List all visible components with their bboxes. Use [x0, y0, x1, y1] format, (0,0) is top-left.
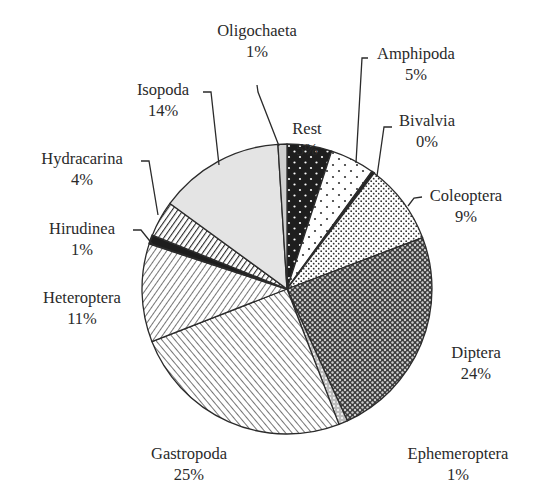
label-name: Oligochaeta	[217, 20, 297, 41]
label-diptera: Diptera24%	[451, 342, 500, 384]
label-amphipoda: Amphipoda5%	[377, 43, 455, 85]
label-isopoda: Isopoda14%	[137, 79, 189, 121]
label-percent: 1%	[408, 464, 509, 485]
label-hirudinea: Hirudinea1%	[49, 218, 115, 260]
label-gastropoda: Gastropoda25%	[151, 443, 227, 485]
label-name: Hirudinea	[49, 218, 115, 239]
leader-line-isopoda	[203, 92, 219, 165]
pie-slices	[142, 144, 432, 434]
label-name: Ephemeroptera	[408, 443, 509, 464]
label-ephemeroptera: Ephemeroptera1%	[408, 443, 509, 485]
leader-line-amphipoda	[356, 58, 368, 163]
leader-line-coleoptera	[408, 197, 422, 206]
label-percent: 11%	[43, 308, 121, 329]
label-percent: 14%	[137, 100, 189, 121]
label-name: Isopoda	[137, 79, 189, 100]
label-percent: 1%	[49, 239, 115, 260]
label-name: Hydracarina	[41, 148, 123, 169]
label-percent: 4%	[41, 169, 123, 190]
leader-line-oligochaeta	[257, 85, 279, 146]
label-name: Rest	[292, 118, 321, 139]
label-coleoptera: Coleoptera9%	[430, 185, 502, 227]
label-percent: 24%	[451, 363, 500, 384]
label-rest: Rest5%	[292, 118, 321, 160]
label-name: Amphipoda	[377, 43, 455, 64]
label-name: Coleoptera	[430, 185, 502, 206]
label-oligochaeta: Oligochaeta1%	[217, 20, 297, 62]
label-percent: 9%	[430, 206, 502, 227]
label-percent: 5%	[292, 139, 321, 160]
label-percent: 5%	[377, 64, 455, 85]
label-name: Diptera	[451, 342, 500, 363]
leader-line-hydracarina	[141, 161, 158, 215]
label-name: Heteroptera	[43, 287, 121, 308]
label-percent: 0%	[399, 131, 455, 152]
label-percent: 25%	[151, 464, 227, 485]
label-name: Bivalvia	[399, 110, 455, 131]
label-heteroptera: Heteroptera11%	[43, 287, 121, 329]
label-hydracarina: Hydracarina4%	[41, 148, 123, 190]
label-percent: 1%	[217, 41, 297, 62]
leader-line-bivalvia	[377, 127, 392, 176]
label-bivalvia: Bivalvia0%	[399, 110, 455, 152]
label-name: Gastropoda	[151, 443, 227, 464]
